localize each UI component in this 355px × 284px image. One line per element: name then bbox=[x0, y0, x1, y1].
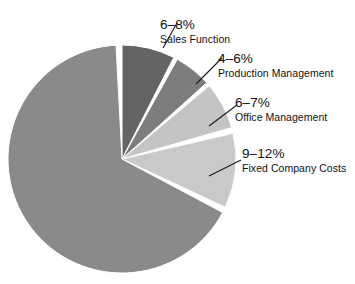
slice-label-fixed-company-costs: 9–12% Fixed Company Costs bbox=[242, 147, 346, 174]
pie-chart-figure: 6–8% Sales Function 4–6% Production Mana… bbox=[0, 0, 355, 284]
slice-value-fixed-company-costs: 9–12% bbox=[242, 147, 346, 162]
slice-name-office-management: Office Management bbox=[235, 111, 327, 124]
pie-slice-group bbox=[8, 45, 236, 273]
slice-value-office-management: 6–7% bbox=[235, 96, 327, 111]
slice-value-production-management: 4–6% bbox=[218, 52, 333, 67]
slice-name-fixed-company-costs: Fixed Company Costs bbox=[242, 162, 346, 175]
slice-label-office-management: 6–7% Office Management bbox=[235, 96, 327, 123]
slice-label-production-management: 4–6% Production Management bbox=[218, 52, 333, 79]
slice-name-production-management: Production Management bbox=[218, 67, 333, 80]
slice-value-sales-function: 6–8% bbox=[160, 18, 230, 33]
slice-label-sales-function: 6–8% Sales Function bbox=[160, 18, 230, 45]
slice-name-sales-function: Sales Function bbox=[160, 33, 230, 46]
